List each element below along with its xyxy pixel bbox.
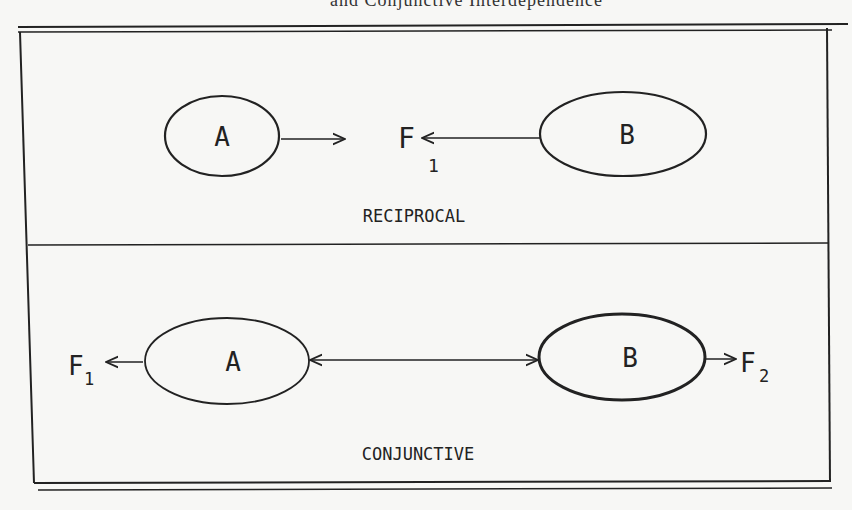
outcome-f1-subscript: 1 [428, 155, 439, 176]
panel-divider [28, 243, 828, 245]
panel-reciprocal: A B F 1 RECIPROCAL [165, 92, 706, 226]
outcome-f2-subscript: 2 [759, 366, 769, 386]
outcome-f1-label: F [68, 351, 84, 381]
panel-title-conjunctive: CONJUNCTIVE [362, 444, 475, 464]
node-a-label: A [214, 122, 230, 152]
node-a-label: A [225, 347, 241, 377]
node-b-label: B [622, 343, 638, 373]
diagram-frame [18, 24, 848, 490]
panel-conjunctive: A B F 1 F 2 CONJUNCTIVE [68, 314, 769, 464]
interdependence-diagram: A B F 1 RECIPROCAL A B F 1 F 2 CONJUNCTI… [0, 0, 852, 510]
outcome-f1-label: F [398, 122, 415, 155]
node-b-label: B [619, 120, 635, 150]
outcome-f1-subscript: 1 [84, 369, 94, 389]
panel-title-reciprocal: RECIPROCAL [363, 206, 465, 226]
outcome-f2-label: F [740, 348, 756, 378]
